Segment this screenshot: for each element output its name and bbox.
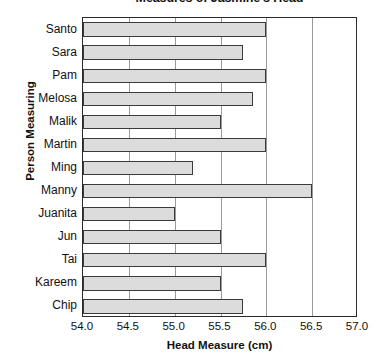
bar-martin [83, 138, 266, 152]
bar-chart: Measures of Jasmine's Head Person Measur… [0, 0, 378, 361]
x-tick-label-56.5: 56.5 [300, 320, 322, 332]
plot-area [82, 17, 357, 317]
x-tick-label-55.0: 55.0 [162, 320, 184, 332]
y-tick-label-tai: Tai [0, 253, 77, 265]
y-tick-label-chip: Chip [0, 299, 77, 311]
bar-manny [83, 184, 312, 198]
bars-layer [83, 18, 356, 316]
y-tick-label-martin: Martin [0, 138, 77, 150]
bar-melosa [83, 92, 253, 106]
y-tick-label-manny: Manny [0, 184, 77, 196]
bar-tai [83, 253, 266, 267]
y-tick-label-santo: Santo [0, 23, 77, 35]
y-tick-label-juanita: Juanita [0, 207, 77, 219]
bar-sara [83, 45, 243, 59]
bar-jun [83, 230, 221, 244]
y-tick-label-pam: Pam [0, 69, 77, 81]
y-tick-label-jun: Jun [0, 230, 77, 242]
bar-ming [83, 161, 193, 175]
y-tick-label-sara: Sara [0, 46, 77, 58]
bar-chip [83, 299, 243, 313]
bar-kareem [83, 276, 221, 290]
x-tick-label-56.0: 56.0 [254, 320, 276, 332]
x-axis-tick-labels: 54.054.555.055.556.056.557.0 [0, 320, 378, 338]
x-tick-label-54.5: 54.5 [117, 320, 139, 332]
x-axis-title: Head Measure (cm) [82, 339, 357, 351]
bar-pam [83, 69, 266, 83]
y-tick-label-ming: Ming [0, 161, 77, 173]
bar-juanita [83, 207, 175, 221]
chart-title: Measures of Jasmine's Head [82, 0, 357, 5]
x-tick-label-55.5: 55.5 [208, 320, 230, 332]
y-tick-label-melosa: Melosa [0, 92, 77, 104]
bar-santo [83, 22, 266, 36]
y-tick-label-malik: Malik [0, 115, 77, 127]
x-tick-label-57.0: 57.0 [346, 320, 368, 332]
bar-malik [83, 115, 221, 129]
x-tick-label-54.0: 54.0 [71, 320, 93, 332]
y-tick-label-kareem: Kareem [0, 276, 77, 288]
y-axis-tick-labels: SantoSaraPamMelosaMalikMartinMingMannyJu… [0, 17, 77, 317]
